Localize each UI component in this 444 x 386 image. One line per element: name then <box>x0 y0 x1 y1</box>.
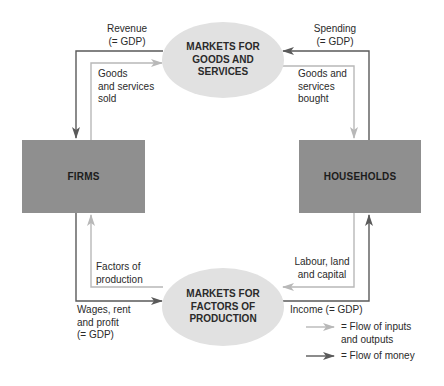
goods-market-ellipse: MARKETS FOR GOODS AND SERVICES <box>162 22 284 98</box>
firms-label: FIRMS <box>67 171 99 182</box>
income-label: Income (= GDP) <box>290 304 363 317</box>
circular-flow-diagram: FIRMS HOUSEHOLDS MARKETS FOR GOODS AND S… <box>0 0 444 386</box>
revenue-label: Revenue (= GDP) <box>97 23 157 48</box>
wages-label: Wages, rent and profit (= GDP) <box>77 304 131 342</box>
spending-label: Spending (= GDP) <box>305 23 365 48</box>
households-box: HOUSEHOLDS <box>299 140 421 213</box>
firms-box: FIRMS <box>22 140 145 213</box>
households-label: HOUSEHOLDS <box>324 171 397 182</box>
goods-sold-label: Goods and services sold <box>98 68 154 106</box>
factors-label: Factors of production <box>96 261 143 286</box>
legend-money-label: = Flow of money <box>341 350 415 363</box>
legend-money: = Flow of money <box>341 350 415 363</box>
factor-market-label: MARKETS FOR FACTORS OF PRODUCTION <box>186 288 259 326</box>
legend-inputs-outputs: = Flow of inputs and outputs <box>341 321 411 346</box>
goods-bought-label: Goods and services bought <box>298 68 347 106</box>
wages-arrow <box>76 213 162 301</box>
factor-market-ellipse: MARKETS FOR FACTORS OF PRODUCTION <box>162 268 284 346</box>
legend-inputs-outputs-label: = Flow of inputs and outputs <box>341 321 411 346</box>
labour-label: Labour, land and capital <box>292 256 352 281</box>
goods-market-label: MARKETS FOR GOODS AND SERVICES <box>186 41 259 79</box>
